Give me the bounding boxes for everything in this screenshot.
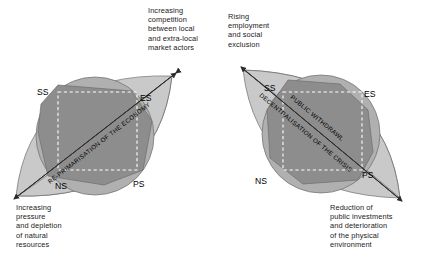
node-label-right-ss: SS — [264, 83, 276, 93]
caption-right-bottom: Reduction of public investments and dete… — [330, 203, 425, 249]
panel-left: RE-PRIMARISATION OF THE ECONOMY SS ES NS… — [14, 73, 176, 199]
node-label-right-ns: NS — [255, 176, 267, 186]
figure-canvas: RE-PRIMARISATION OF THE ECONOMY SS ES NS… — [0, 0, 425, 269]
node-label-left-ps: PS — [133, 179, 145, 189]
node-label-right-ps: PS — [362, 170, 374, 180]
node-label-left-ns: NS — [55, 181, 67, 191]
node-label-right-es: ES — [364, 89, 376, 99]
panel-right: PUBLIC WITHDRAWL DECENTRALISATION OF THE… — [241, 67, 402, 201]
caption-left-bottom: Increasing pressure and depletion of nat… — [16, 203, 104, 249]
node-label-left-es: ES — [140, 93, 152, 103]
node-label-left-ss: SS — [37, 87, 49, 97]
caption-left-top: Increasing competition between local and… — [148, 6, 226, 52]
caption-right-top: Rising employment and social exclusion — [228, 12, 302, 49]
